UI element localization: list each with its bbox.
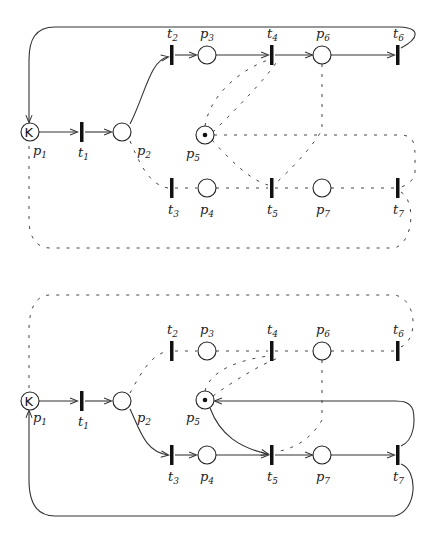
bottom-labels: p1 t1 p2 t2 p3 t4 p6 t6 p5 t3 p4 t5 p7 t…	[33, 322, 404, 486]
top-label-p7: p7	[316, 202, 330, 219]
bottom-solid-arcs	[29, 401, 414, 516]
bottom-place-p4	[198, 446, 216, 464]
top-label-p1: p1	[33, 143, 47, 160]
bottom-label-p4: p4	[200, 469, 214, 486]
top-place-p2	[113, 123, 131, 141]
top-label-t3: t3	[168, 202, 179, 219]
bottom-label-t1: t1	[78, 414, 89, 431]
bottom-place-p3	[198, 342, 216, 360]
top-transition-t5	[270, 178, 274, 198]
top-label-t1: t1	[78, 145, 89, 162]
bottom-transition-t2	[170, 341, 174, 361]
bottom-label-p6: p6	[316, 322, 330, 339]
top-place-p3	[198, 46, 216, 64]
top-transition-t7	[396, 178, 400, 198]
petri-net-figure: K p1 t1 p2 t2 p3 t4 p6 t	[0, 0, 439, 546]
top-transition-t4	[270, 45, 274, 65]
bottom-place-p7	[313, 446, 331, 464]
bottom-label-t5: t5	[267, 469, 278, 486]
top-label-t4: t4	[267, 26, 278, 43]
bottom-label-t4: t4	[267, 322, 278, 339]
bottom-label-p7: p7	[316, 469, 330, 486]
bottom-transition-t4	[270, 341, 274, 361]
bottom-label-t6: t6	[393, 322, 404, 339]
top-p5-token-icon	[203, 133, 208, 138]
top-label-t6: t6	[393, 26, 404, 43]
top-transition-t3	[170, 178, 174, 198]
bottom-transition-t6	[396, 341, 400, 361]
top-label-p5: p5	[186, 146, 200, 163]
bottom-label-t3: t3	[168, 469, 179, 486]
bottom-p5-token-icon	[203, 398, 208, 403]
top-place-p6	[313, 46, 331, 64]
top-label-t7: t7	[393, 202, 404, 219]
bottom-transition-t7	[396, 445, 400, 465]
top-label-p3: p3	[200, 26, 214, 43]
bottom-place-p2	[113, 392, 131, 410]
bottom-place-p6	[313, 342, 331, 360]
top-place-p4	[198, 179, 216, 197]
top-solid-arcs	[29, 27, 415, 132]
bottom-places: K	[21, 342, 331, 464]
top-label-p2: p2	[137, 143, 151, 160]
bottom-label-t2: t2	[167, 322, 178, 339]
top-label-p6: p6	[316, 26, 330, 43]
bottom-p1-token: K	[25, 394, 34, 409]
bottom-transition-t1	[80, 391, 84, 411]
top-transitions	[80, 45, 400, 198]
top-label-t2: t2	[167, 26, 178, 43]
bottom-label-p1: p1	[33, 410, 47, 427]
top-petri-net: K p1 t1 p2 t2 p3 t4 p6 t	[21, 26, 415, 248]
bottom-transition-t3	[170, 445, 174, 465]
bottom-transition-t5	[270, 445, 274, 465]
bottom-petri-net: K p1 t1 p2 t2 p3 t4 p6 t6 p5	[21, 295, 414, 516]
top-label-t5: t5	[267, 202, 278, 219]
top-label-p4: p4	[200, 202, 214, 219]
top-places: K	[21, 46, 331, 197]
bottom-label-p3: p3	[200, 322, 214, 339]
bottom-label-p5: p5	[186, 410, 200, 427]
bottom-label-p2: p2	[137, 410, 151, 427]
top-transition-t1	[80, 122, 84, 142]
top-transition-t2	[170, 45, 174, 65]
bottom-label-t7: t7	[393, 469, 404, 486]
top-transition-t6	[396, 45, 400, 65]
top-place-p7	[313, 179, 331, 197]
top-p1-token: K	[25, 125, 34, 140]
